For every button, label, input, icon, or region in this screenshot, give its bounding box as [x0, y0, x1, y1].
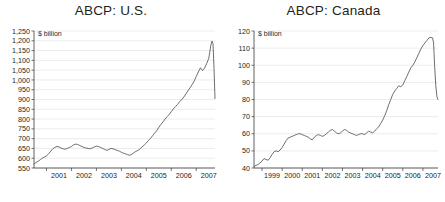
x-tick-label: 2007	[201, 171, 217, 180]
data-series-line	[34, 41, 215, 164]
y-tick-label: 70	[242, 112, 250, 121]
plot-area-canada: 1201101009080706050401999200020012002200…	[222, 0, 445, 202]
plot-area-us: 1,2501,2001,1501,1001,0501,0009509008508…	[0, 0, 222, 202]
y-tick-label: 90	[242, 78, 250, 87]
x-tick-label: 2007	[425, 171, 441, 180]
y-tick-label: 700	[18, 134, 30, 143]
y-tick-label: 80	[242, 95, 250, 104]
y-tick-label: 600	[18, 154, 30, 163]
x-tick-label: 2000	[284, 171, 300, 180]
y-tick-label: 950	[18, 85, 30, 94]
x-tick-label: 2004	[365, 171, 381, 180]
y-tick-label: 100	[238, 61, 250, 70]
x-tick-label: 1999	[264, 171, 280, 180]
y-tick-label: 120	[238, 27, 250, 36]
y-tick-label: 650	[18, 144, 30, 153]
x-tick-label: 2002	[324, 171, 340, 180]
y-tick-label: 1,200	[12, 36, 30, 45]
chart-panel-us: ABCP: U.S. $ billion 1,2501,2001,1501,10…	[0, 0, 222, 202]
y-tick-label: 1,000	[12, 76, 30, 85]
x-tick-label: 2006	[176, 171, 192, 180]
y-tick-label: 40	[242, 164, 250, 173]
y-tick-label: 800	[18, 115, 30, 124]
x-tick-label: 2005	[151, 171, 167, 180]
y-tick-label: 50	[242, 146, 250, 155]
y-tick-label: 900	[18, 95, 30, 104]
y-tick-label: 550	[18, 164, 30, 173]
x-tick-label: 2004	[126, 171, 142, 180]
y-tick-label: 850	[18, 105, 30, 114]
figure-container: ABCP: U.S. $ billion 1,2501,2001,1501,10…	[0, 0, 445, 202]
chart-panel-canada: ABCP: Canada $ billion 12011010090807060…	[222, 0, 445, 202]
y-tick-label: 1,050	[12, 66, 30, 75]
x-tick-label: 2005	[385, 171, 401, 180]
x-tick-label: 2001	[304, 171, 320, 180]
y-tick-label: 60	[242, 129, 250, 138]
data-series-line	[254, 38, 438, 167]
y-tick-label: 1,150	[12, 46, 30, 55]
x-tick-label: 2001	[51, 171, 67, 180]
x-tick-label: 2006	[405, 171, 421, 180]
y-tick-label: 750	[18, 124, 30, 133]
x-tick-label: 2003	[345, 171, 361, 180]
x-tick-label: 2002	[76, 171, 92, 180]
y-tick-label: 110	[239, 44, 250, 53]
y-tick-label: 1,100	[12, 56, 30, 65]
x-tick-label: 2003	[101, 171, 117, 180]
y-tick-label: 1,250	[12, 27, 30, 36]
